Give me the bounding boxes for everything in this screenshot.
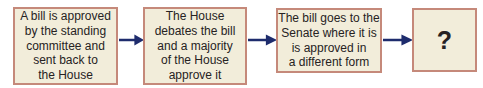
flow-step-4-unknown: ? — [412, 8, 477, 72]
flow-step-2-label: The House debates the bill and a majorit… — [145, 9, 245, 83]
right-arrow-icon — [383, 33, 413, 47]
right-arrow-icon — [119, 33, 144, 47]
flow-step-4-label: ? — [414, 28, 475, 53]
flow-step-1: A bill is approved by the standing commi… — [13, 7, 118, 85]
right-arrow-icon — [248, 33, 277, 47]
flow-step-3-label: The bill goes to the Senate where it is … — [278, 11, 380, 70]
flow-step-3: The bill goes to the Senate where it is … — [276, 8, 382, 73]
flowchart: A bill is approved by the standing commi… — [0, 0, 483, 88]
flow-step-2: The House debates the bill and a majorit… — [143, 7, 247, 85]
flow-step-1-label: A bill is approved by the standing commi… — [15, 9, 116, 83]
